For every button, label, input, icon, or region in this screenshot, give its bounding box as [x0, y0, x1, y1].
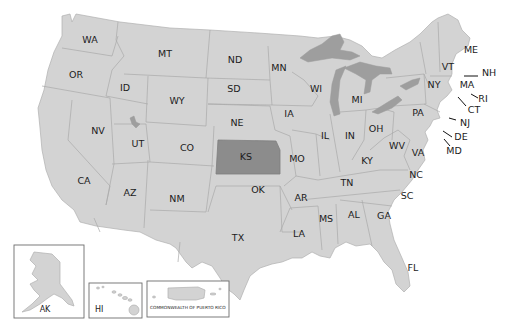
label-pa: PA — [412, 107, 424, 118]
label-az: AZ — [123, 187, 136, 198]
label-ct: CT — [468, 104, 481, 115]
label-ca: CA — [77, 175, 91, 186]
us-map: WA OR CA NV ID MT WY UT AZ CO NM ND SD N… — [0, 0, 512, 334]
label-wi: WI — [310, 83, 322, 94]
label-in: IN — [345, 130, 355, 141]
label-ga: GA — [377, 210, 391, 221]
label-sd: SD — [227, 83, 240, 94]
label-va: VA — [412, 147, 425, 158]
puerto-rico-shape — [168, 287, 205, 300]
label-tn: TN — [340, 177, 354, 188]
label-mi: MI — [352, 94, 363, 105]
label-ma: MA — [460, 79, 475, 90]
label-wy: WY — [169, 95, 184, 106]
label-sc: SC — [401, 190, 414, 201]
label-vt: VT — [442, 61, 454, 72]
label-nh: NH — [482, 67, 496, 78]
label-md: MD — [446, 145, 462, 156]
label-id: ID — [120, 82, 130, 93]
label-hi: HI — [95, 305, 103, 314]
label-ms: MS — [319, 213, 333, 224]
label-nd: ND — [228, 54, 242, 65]
label-al: AL — [348, 209, 360, 220]
puerto-rico-inset: COMMONWEALTH OF PUERTO RICO — [147, 281, 229, 317]
label-ia: IA — [284, 108, 294, 119]
label-wv: WV — [389, 140, 405, 151]
label-mt: MT — [158, 48, 172, 59]
label-ak: AK — [40, 305, 51, 314]
label-co: CO — [180, 142, 194, 153]
label-ks: KS — [240, 151, 252, 162]
label-oh: OH — [369, 123, 384, 134]
label-nj: NJ — [460, 117, 470, 128]
label-nm: NM — [169, 193, 184, 204]
label-fl: FL — [408, 262, 419, 273]
label-tx: TX — [231, 232, 245, 243]
label-ar: AR — [294, 192, 307, 203]
label-ky: KY — [361, 155, 373, 166]
label-or: OR — [69, 69, 83, 80]
label-ne: NE — [230, 117, 243, 128]
hawaii-inset: HI — [89, 283, 142, 318]
label-ny: NY — [428, 79, 441, 90]
label-nc: NC — [409, 169, 423, 180]
alaska-inset: AK — [14, 245, 84, 318]
label-de: DE — [454, 131, 467, 142]
label-puerto-rico: COMMONWEALTH OF PUERTO RICO — [150, 305, 226, 310]
label-mo: MO — [289, 153, 305, 164]
label-nv: NV — [91, 125, 105, 136]
label-la: LA — [293, 228, 306, 239]
label-me: ME — [464, 44, 478, 55]
label-ri: RI — [478, 93, 487, 104]
label-ut: UT — [132, 138, 145, 149]
label-ok: OK — [251, 184, 265, 195]
label-il: IL — [321, 130, 330, 141]
label-mn: MN — [271, 62, 286, 73]
label-wa: WA — [82, 34, 98, 45]
